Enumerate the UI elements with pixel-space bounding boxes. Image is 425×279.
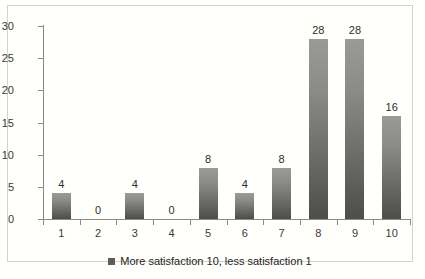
bar bbox=[382, 116, 401, 219]
chart-frame: 051015202530 12345678910 4040848282816 M… bbox=[7, 5, 413, 262]
x-axis-tick-label: 5 bbox=[193, 228, 223, 239]
bar-value-label: 8 bbox=[193, 154, 223, 165]
bar bbox=[235, 193, 254, 219]
y-axis-tick-label: 30 bbox=[0, 21, 14, 32]
bar-value-label: 4 bbox=[46, 179, 76, 190]
bar bbox=[309, 39, 328, 219]
x-axis-tick bbox=[116, 220, 117, 225]
bar bbox=[199, 168, 218, 219]
x-axis-tick-label: 6 bbox=[230, 228, 260, 239]
bar-value-label: 8 bbox=[267, 154, 297, 165]
y-axis-tick bbox=[38, 123, 43, 124]
x-axis-tick-label: 8 bbox=[303, 228, 333, 239]
x-axis-tick bbox=[43, 220, 44, 225]
bar bbox=[52, 193, 71, 219]
y-axis-tick-label: 20 bbox=[0, 85, 14, 96]
legend-label: More satisfaction 10, less satisfaction … bbox=[120, 255, 311, 267]
x-axis-tick-label: 3 bbox=[120, 228, 150, 239]
bar-value-label: 0 bbox=[83, 205, 113, 216]
bar-value-label: 28 bbox=[303, 25, 333, 36]
x-axis-tick-label: 9 bbox=[340, 228, 370, 239]
legend-marker-icon bbox=[108, 258, 115, 265]
bar-value-label: 4 bbox=[120, 179, 150, 190]
x-axis-tick bbox=[373, 220, 374, 225]
bar-value-label: 28 bbox=[340, 25, 370, 36]
y-axis-tick bbox=[38, 155, 43, 156]
x-axis-tick-label: 2 bbox=[83, 228, 113, 239]
x-axis-tick bbox=[300, 220, 301, 225]
x-axis-tick-label: 10 bbox=[377, 228, 407, 239]
x-axis-tick bbox=[410, 220, 411, 225]
bar-value-label: 16 bbox=[377, 102, 407, 113]
y-axis-tick-label: 0 bbox=[0, 214, 14, 225]
x-axis-tick bbox=[80, 220, 81, 225]
x-axis-tick bbox=[227, 220, 228, 225]
bar-value-label: 4 bbox=[230, 179, 260, 190]
bar bbox=[125, 193, 144, 219]
x-axis-tick-label: 4 bbox=[156, 228, 186, 239]
x-axis-tick bbox=[190, 220, 191, 225]
x-axis-tick bbox=[153, 220, 154, 225]
y-axis-tick-label: 15 bbox=[0, 118, 14, 129]
y-axis-tick bbox=[38, 58, 43, 59]
bar bbox=[272, 168, 291, 219]
chart-legend: More satisfaction 10, less satisfaction … bbox=[8, 255, 412, 267]
x-axis-tick bbox=[263, 220, 264, 225]
x-axis-tick bbox=[337, 220, 338, 225]
bar bbox=[345, 39, 364, 219]
bar-value-label: 0 bbox=[156, 205, 186, 216]
y-axis-tick bbox=[38, 26, 43, 27]
bar-chart-image: 051015202530 12345678910 4040848282816 M… bbox=[0, 0, 425, 279]
y-axis-tick bbox=[38, 187, 43, 188]
y-axis-tick-label: 25 bbox=[0, 53, 14, 64]
y-axis-tick-label: 10 bbox=[0, 150, 14, 161]
y-axis-line bbox=[43, 25, 44, 220]
x-axis-tick-label: 1 bbox=[46, 228, 76, 239]
y-axis-tick-label: 5 bbox=[0, 182, 14, 193]
y-axis-tick bbox=[38, 90, 43, 91]
x-axis-tick-label: 7 bbox=[267, 228, 297, 239]
